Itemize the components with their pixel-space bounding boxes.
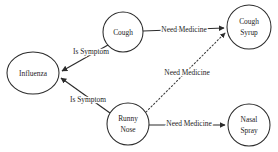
node-cough-label: Cough	[113, 28, 133, 37]
knowledge-graph-diagram: Influenza Cough Runny Nose Cough Syrup N…	[0, 0, 278, 152]
node-cough-syrup-label-line-1: Cough	[239, 17, 259, 26]
graph-canvas: Influenza Cough Runny Nose Cough Syrup N…	[0, 0, 278, 152]
edge-label-is-symptom-cough: Is Symptom	[73, 47, 109, 56]
node-runny-nose-label-line-2: Nose	[120, 125, 136, 134]
node-nasal-spray[interactable]: Nasal Spray	[228, 104, 270, 146]
node-nasal-spray-label-line-2: Spray	[240, 126, 258, 135]
node-runny-nose[interactable]: Runny Nose	[107, 103, 149, 145]
edge-label-need-medicine-cough-syrup: Need Medicine	[161, 25, 207, 34]
edge-label-need-medicine-nasal-spray: Need Medicine	[166, 119, 212, 128]
node-cough-syrup-label-line-2: Syrup	[240, 28, 258, 37]
edge-label-is-symptom-runny-nose: Is Symptom	[70, 95, 106, 104]
edge-label-need-medicine-dotted: Need Medicine	[164, 68, 210, 77]
node-influenza-label: Influenza	[19, 69, 48, 78]
node-nasal-spray-label-line-1: Nasal	[241, 115, 258, 124]
node-cough-syrup[interactable]: Cough Syrup	[227, 5, 271, 49]
node-cough[interactable]: Cough	[103, 12, 143, 52]
node-influenza[interactable]: Influenza	[7, 52, 59, 94]
node-runny-nose-label-line-1: Runny	[118, 114, 138, 123]
